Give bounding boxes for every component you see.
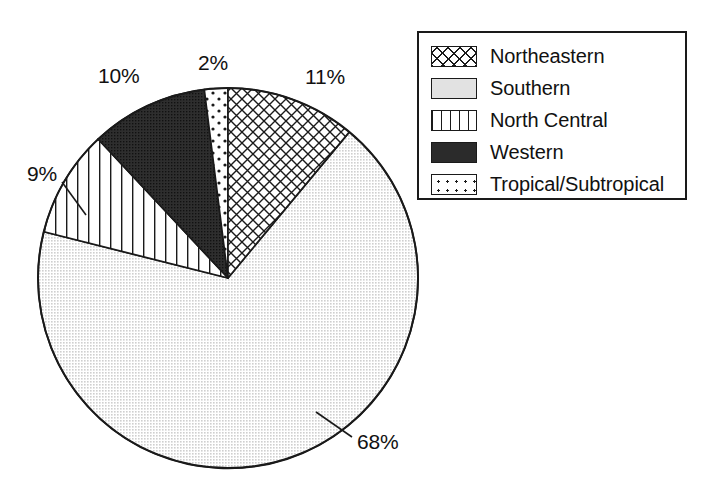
legend-label-western: Western xyxy=(490,141,563,164)
legend-label-north-central: North Central xyxy=(490,109,608,132)
legend-label-tropical-subtropical: Tropical/Subtropical xyxy=(490,173,664,196)
legend-item-southern[interactable]: Southern xyxy=(431,74,685,103)
pie-label-north-central: 9% xyxy=(27,162,57,186)
pie-label-southern: 68% xyxy=(357,430,398,454)
legend-label-northeastern: Northeastern xyxy=(490,45,604,68)
pie-slices xyxy=(38,88,418,468)
legend-swatch-crosshatch-icon xyxy=(431,46,477,67)
legend-item-northeastern[interactable]: Northeastern xyxy=(431,42,685,71)
legend-item-north-central[interactable]: North Central xyxy=(431,106,685,135)
legend: Northeastern Southern North Central West… xyxy=(417,31,687,200)
legend-label-southern: Southern xyxy=(490,77,570,100)
legend-item-western[interactable]: Western xyxy=(431,138,685,167)
pie-label-tropical-subtropical: 2% xyxy=(198,51,228,75)
legend-swatch-solid-dark-icon xyxy=(431,142,477,163)
pie-chart-figure: 2% 11% 10% 9% 68% Northeastern Southern … xyxy=(0,0,718,494)
legend-swatch-vertical-lines-icon xyxy=(431,110,477,131)
pie-label-western: 10% xyxy=(98,64,139,88)
legend-item-tropical-subtropical[interactable]: Tropical/Subtropical xyxy=(431,170,685,199)
legend-swatch-light-gray-icon xyxy=(431,78,477,99)
pie-label-northeastern: 11% xyxy=(305,65,345,89)
legend-swatch-sparse-dots-icon xyxy=(431,174,477,195)
